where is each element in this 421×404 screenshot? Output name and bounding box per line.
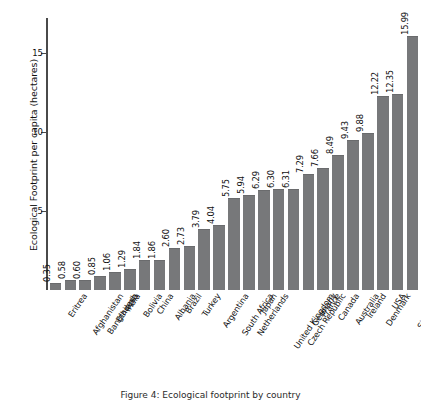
bar-slot: 0.85	[93, 18, 108, 290]
bar: 1.84	[139, 260, 151, 290]
bar-slot: 12.22	[375, 18, 390, 290]
bar: 1.86	[154, 260, 166, 290]
bar-slot: 9.88	[360, 18, 375, 290]
bar-slot: 8.49	[331, 18, 346, 290]
bar: 0.85	[94, 276, 106, 290]
bar-value-label: 5.94	[237, 176, 245, 194]
bar-value-label: 12.22	[371, 72, 379, 95]
bar-slot: 5.75	[227, 18, 242, 290]
bar-value-label: 1.29	[118, 250, 126, 268]
bar: 12.22	[377, 96, 389, 290]
bar-slot: 2.60	[167, 18, 182, 290]
bar-value-label: 6.29	[252, 171, 260, 189]
bar: 0.58	[65, 280, 77, 290]
bar-value-label: 15.99	[401, 12, 409, 35]
bar-slot: 3.79	[197, 18, 212, 290]
bar-slot: 0.58	[63, 18, 78, 290]
bar-value-label: 0.58	[58, 261, 66, 279]
bar-value-label: 5.75	[222, 179, 230, 197]
bar-value-label: 1.86	[148, 241, 156, 259]
x-axis-category-label: India	[124, 292, 142, 313]
bar-value-label: 12.35	[386, 70, 394, 93]
bar-slot: 2.73	[182, 18, 197, 290]
bar-value-label: 7.29	[296, 155, 304, 173]
y-axis-tick-label: 15	[32, 48, 43, 58]
bar-value-label: 8.49	[326, 136, 334, 154]
bar-value-label: 9.88	[356, 114, 364, 132]
bar-value-label: 2.60	[162, 229, 170, 247]
bar: 5.94	[243, 195, 255, 290]
bar-slot: 1.86	[152, 18, 167, 290]
bar-value-label: 7.66	[311, 149, 319, 167]
x-axis-category-labels: EritreaAfghanistanBangladeshEthiopiaIndi…	[48, 292, 420, 387]
bar-slot: 6.31	[286, 18, 301, 290]
bar-value-label: 3.79	[192, 210, 200, 228]
bar-slot: 6.30	[271, 18, 286, 290]
bar: 6.31	[288, 189, 300, 290]
bar-slot: 6.29	[256, 18, 271, 290]
bar-value-label: 2.73	[177, 227, 185, 245]
x-axis-category-label: Turkey	[201, 292, 223, 319]
bar-value-label: 1.84	[133, 241, 141, 259]
bar: 0.60	[79, 280, 91, 290]
bar: 5.75	[228, 198, 240, 290]
bar-value-label: 0.35	[43, 265, 51, 283]
bar: 0.35	[50, 283, 62, 290]
bar-value-label: 6.30	[267, 171, 275, 189]
y-axis-tick-label: 5	[38, 206, 43, 216]
bar-value-label: 1.06	[103, 253, 111, 271]
bar: 8.49	[332, 155, 344, 290]
bar-slot: 4.04	[212, 18, 227, 290]
bar: 3.79	[198, 229, 210, 290]
bar: 4.04	[213, 225, 225, 290]
bar: 9.43	[347, 140, 359, 290]
bar: 1.06	[109, 272, 121, 290]
bar-value-label: 6.31	[282, 170, 290, 188]
figure-container: Ecological Footprint per capita (hectare…	[0, 0, 421, 404]
bar-slot: 15.99	[405, 18, 420, 290]
bar-slot: 0.60	[78, 18, 93, 290]
bar-slot: 5.94	[241, 18, 256, 290]
bar-slot: 7.66	[316, 18, 331, 290]
bar: 6.30	[273, 189, 285, 290]
bar-slot: 12.35	[390, 18, 405, 290]
bar: 6.29	[258, 190, 270, 290]
bar-slot: 0.35	[48, 18, 63, 290]
bar: 7.29	[303, 174, 315, 290]
bar: 2.73	[184, 246, 196, 290]
bar: 2.60	[169, 248, 181, 290]
bar: 9.88	[362, 133, 374, 290]
bar-value-label: 0.85	[88, 257, 96, 275]
bar: 1.29	[124, 269, 136, 290]
bar: 15.99	[407, 36, 419, 290]
figure-caption: Figure 4: Ecological footprint by countr…	[0, 390, 421, 400]
bar-value-label: 0.60	[73, 261, 81, 279]
plot-area: 51015 0.350.580.600.851.061.291.841.862.…	[46, 18, 418, 290]
y-axis-tick-label: 10	[32, 127, 43, 137]
bar-series: 0.350.580.600.851.061.291.841.862.602.73…	[48, 18, 418, 290]
x-axis-category-label: Eritrea	[67, 292, 89, 319]
x-axis-category-label: Singapore	[416, 292, 421, 331]
bar-slot: 9.43	[346, 18, 361, 290]
bar: 12.35	[392, 94, 404, 290]
bar-value-label: 4.04	[207, 206, 215, 224]
bar-value-label: 9.43	[341, 121, 349, 139]
bar: 7.66	[317, 168, 329, 290]
